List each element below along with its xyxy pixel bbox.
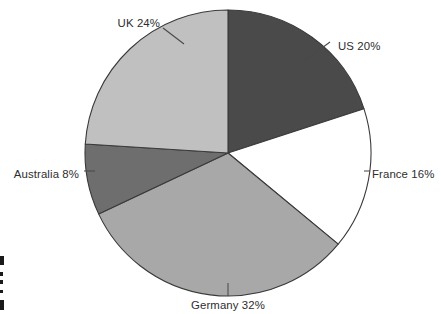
slice-label-australia: Australia 8% (14, 168, 79, 180)
page-edge-mark-3 (0, 280, 3, 284)
page-edge-mark-2 (0, 272, 3, 276)
page-edge-mark-5 (0, 300, 4, 310)
page-edge-mark-4 (0, 290, 3, 293)
pie-chart-figure: US 20%France 16%Germany 32%Australia 8%U… (0, 0, 441, 314)
pie-chart-svg: US 20%France 16%Germany 32%Australia 8%U… (0, 0, 441, 314)
slice-label-france: France 16% (372, 168, 434, 180)
slice-label-uk: UK 24% (118, 17, 160, 29)
pie-slices-group (85, 10, 371, 296)
page-edge-mark-1 (0, 256, 4, 265)
slice-label-us: US 20% (338, 40, 380, 52)
pie-slice-uk[interactable] (85, 10, 228, 153)
slice-label-germany: Germany 32% (191, 299, 265, 311)
